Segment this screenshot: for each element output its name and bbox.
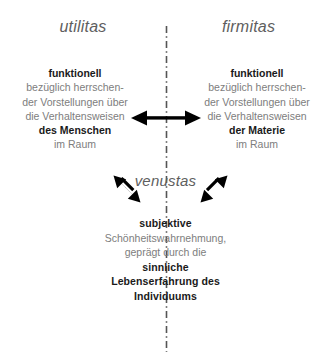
- text-block-utilitas: funktionell bezüglich herrschen- der Vor…: [8, 66, 142, 152]
- bottom-line-3: geprägt durch die: [83, 245, 248, 260]
- bottom-line-5: Lebenserfahrung des: [83, 274, 248, 289]
- heading-firmitas: firmitas: [166, 18, 331, 36]
- bottom-line-2: Schönheitswahrnehmung,: [83, 231, 248, 246]
- left-line-4: die Verhaltensweisen: [8, 109, 142, 123]
- bottom-line-6: Individuums: [83, 289, 248, 304]
- left-line-6: im Raum: [8, 137, 142, 151]
- left-line-3: der Vorstellungen über: [8, 95, 142, 109]
- right-line-2: bezüglich herrschen-: [190, 80, 324, 94]
- right-line-3: der Vorstellungen über: [190, 95, 324, 109]
- text-block-firmitas: funktionell bezüglich herrschen- der Vor…: [190, 66, 324, 152]
- left-line-5: des Menschen: [8, 123, 142, 137]
- right-line-1: funktionell: [190, 66, 324, 80]
- right-line-6: im Raum: [190, 137, 324, 151]
- heading-utilitas: utilitas: [0, 18, 166, 36]
- right-line-4: die Verhaltensweisen: [190, 109, 324, 123]
- bottom-line-4: sinnliche: [83, 260, 248, 275]
- right-line-5: der Materie: [190, 123, 324, 137]
- bottom-line-1: subjektive: [83, 216, 248, 231]
- heading-venustas: venustas: [0, 172, 331, 189]
- text-block-venustas: subjektive Schönheitswahrnehmung, gepräg…: [83, 216, 248, 304]
- diagram-canvas: utilitas firmitas venustas funktionell b…: [0, 0, 331, 363]
- left-line-1: funktionell: [8, 66, 142, 80]
- left-line-2: bezüglich herrschen-: [8, 80, 142, 94]
